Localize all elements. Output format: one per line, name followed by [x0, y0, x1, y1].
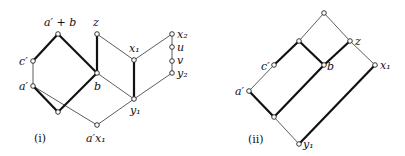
label-a: a′	[235, 85, 245, 98]
edge-top-b	[58, 34, 97, 73]
edge-top-t2	[299, 13, 324, 41]
label-ax1: a′x₁	[86, 132, 106, 145]
caption-i: (i)	[34, 132, 46, 145]
panel-i: a′ + b z x₂ u v y₂ x₁ c′ a′ b y₁ a′x₁ (i…	[19, 16, 188, 145]
edge-b-y1	[97, 73, 134, 99]
label-c: c′	[19, 55, 28, 68]
node-x1	[132, 58, 137, 63]
label-u: u	[177, 41, 184, 54]
edge-top-z	[324, 13, 350, 41]
node-a-plus-b	[56, 32, 61, 37]
node-z	[348, 39, 353, 44]
label-y1: y₁	[129, 104, 141, 117]
edge-y1-ax1	[97, 99, 134, 125]
label-y2: y₂	[176, 67, 188, 80]
node-y1	[132, 97, 137, 102]
label-x1: x₁	[380, 59, 391, 72]
node-bottom-mid	[56, 110, 61, 115]
edge-top-c	[33, 34, 58, 61]
edge-b-m	[274, 65, 324, 117]
label-z: z	[92, 16, 99, 29]
node-u	[170, 45, 175, 50]
node-ax1	[95, 123, 100, 128]
node-top	[322, 11, 327, 16]
edge-x1-x2	[134, 34, 172, 60]
lattice-diagrams: a′ + b z x₂ u v y₂ x₁ c′ a′ b y₁ a′x₁ (i…	[0, 0, 405, 156]
edge-m-y1	[274, 117, 299, 144]
label-x2: x₂	[177, 28, 188, 41]
label-y1: y₁	[302, 138, 314, 151]
edge-t2-b	[299, 41, 324, 65]
node-b	[95, 71, 100, 76]
edge-t2-c	[274, 41, 299, 65]
edge-x1-y1	[299, 65, 375, 144]
edge-z-x1	[350, 41, 375, 65]
node-x1	[373, 63, 378, 68]
node-y1	[297, 142, 302, 147]
node-c	[272, 63, 277, 68]
caption-ii: (ii)	[248, 133, 264, 146]
label-a: a′	[19, 80, 29, 93]
node-t2	[297, 39, 302, 44]
label-b: b	[94, 80, 101, 93]
node-inner-bottom	[272, 115, 277, 120]
label-x1: x₁	[129, 42, 140, 55]
edge-m-b	[58, 73, 97, 112]
node-c	[31, 59, 36, 64]
node-y2	[170, 71, 175, 76]
label-b: b	[327, 60, 334, 73]
panel-ii: z c′ b x₁ a′ y₁ (ii)	[235, 11, 391, 151]
node-z	[95, 32, 100, 37]
node-b	[322, 63, 327, 68]
edge-y2-y1	[134, 73, 172, 99]
node-x2	[170, 32, 175, 37]
lattice-figure: a′ + b z x₂ u v y₂ x₁ c′ a′ b y₁ a′x₁ (i…	[0, 0, 405, 156]
node-v	[170, 59, 175, 64]
node-a	[31, 84, 36, 89]
label-a-plus-b: a′ + b	[44, 16, 76, 29]
label-z: z	[354, 35, 361, 48]
label-v: v	[177, 54, 184, 67]
edge-a-m	[249, 91, 274, 117]
label-c: c′	[261, 60, 270, 73]
node-a	[247, 89, 252, 94]
